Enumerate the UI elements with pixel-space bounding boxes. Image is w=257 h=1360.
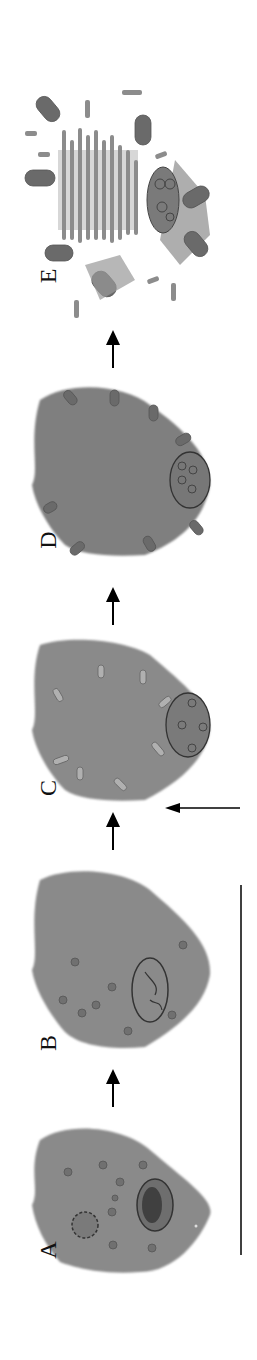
nucleus-a-inner: [142, 1187, 162, 1223]
label-b: B: [35, 1035, 61, 1051]
arrow-c-to-d: [106, 587, 120, 625]
arrow-a-to-b: [106, 1069, 120, 1107]
cell-b-body: [32, 871, 210, 1048]
vacuole-a: [72, 1212, 98, 1238]
diagram-canvas: A B: [0, 0, 257, 1360]
nucleus-d: [170, 452, 210, 508]
arrow-d-to-e: [106, 330, 120, 368]
cell-b: [32, 871, 210, 1048]
label-d: D: [35, 531, 61, 548]
pointer-arrow: [165, 803, 240, 813]
label-e: E: [35, 269, 61, 284]
cell-c: [32, 640, 210, 801]
label-c: C: [35, 780, 61, 796]
label-a: A: [35, 1241, 61, 1259]
nucleus-e: [147, 167, 179, 233]
arrow-b-to-c: [106, 812, 120, 850]
